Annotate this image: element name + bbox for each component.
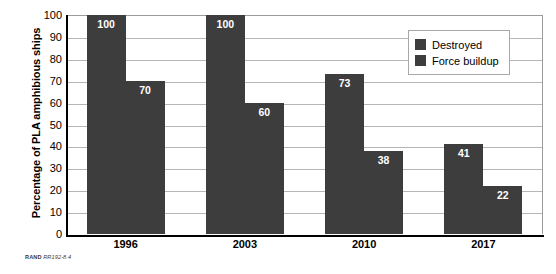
x-axis-line: [66, 235, 544, 237]
y-tick-label: 60: [30, 97, 62, 109]
source-label: RAND: [25, 254, 42, 260]
legend-item[interactable]: Destroyed: [415, 37, 499, 52]
y-tick-label: 30: [30, 162, 62, 174]
y-tick-label: 80: [30, 53, 62, 65]
x-tick-label: 2017: [471, 238, 495, 250]
y-tick-label: 90: [30, 31, 62, 43]
bar: 73: [325, 74, 364, 234]
bar-value-label: 100: [87, 18, 126, 30]
bar-value-label: 73: [325, 77, 364, 89]
bar: 70: [126, 81, 165, 234]
y-axis-line: [66, 15, 68, 236]
legend-swatch-icon: [415, 39, 426, 50]
y-tick-label: 50: [30, 119, 62, 131]
bar-value-label: 22: [483, 189, 522, 201]
bar: 60: [245, 103, 284, 234]
y-tick-label: 0: [30, 228, 62, 240]
bar: 38: [364, 151, 403, 234]
legend-item[interactable]: Force buildup: [415, 53, 499, 68]
bar-chart-figure: Percentage of PLA amphibious ships 10090…: [0, 0, 556, 274]
y-tick-label: 100: [30, 9, 62, 21]
y-axis-tick-labels: 1009080706050403020100: [30, 15, 62, 234]
x-tick-label: 1996: [113, 238, 137, 250]
figure-id: RR192-8.4: [43, 254, 71, 260]
bar-value-label: 100: [206, 18, 245, 30]
legend-label: Force buildup: [432, 55, 499, 67]
bar-value-label: 38: [364, 154, 403, 166]
y-tick-label: 10: [30, 206, 62, 218]
chart-legend: DestroyedForce buildup: [408, 30, 510, 75]
figure-source-note: RAND RR192-8.4: [25, 254, 71, 260]
bar-value-label: 60: [245, 106, 284, 118]
bar: 41: [444, 144, 483, 234]
legend-swatch-icon: [415, 55, 426, 66]
y-tick-label: 20: [30, 184, 62, 196]
y-tick-label: 70: [30, 75, 62, 87]
legend-label: Destroyed: [432, 39, 482, 51]
y-tick-label: 40: [30, 140, 62, 152]
x-tick-label: 2003: [233, 238, 257, 250]
bar-value-label: 70: [126, 84, 165, 96]
bar: 100: [87, 15, 126, 234]
x-axis-tick-labels: 1996200320102017: [66, 238, 543, 254]
bar: 100: [206, 15, 245, 234]
x-tick-label: 2010: [352, 238, 376, 250]
bar: 22: [483, 186, 522, 234]
bar-value-label: 41: [444, 147, 483, 159]
